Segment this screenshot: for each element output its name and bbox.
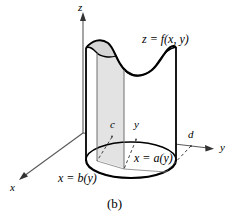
solid-region-diagram [0, 0, 237, 224]
x-axis-label: x [10, 182, 15, 193]
surface-equation-label: z = f(x, y) [142, 33, 189, 45]
figure-container: z y x z = f(x, y) c y d x = a(y) x = b(y… [0, 0, 237, 224]
z-axis-arrowhead [80, 12, 86, 21]
x-axis-arrowhead [19, 172, 28, 180]
point-y-label: y [134, 119, 139, 130]
figure-caption: (b) [107, 197, 122, 210]
tick-c [111, 136, 113, 138]
point-d-label: d [188, 129, 194, 140]
x-axis-line [24, 133, 83, 176]
point-c-label: c [110, 119, 115, 130]
y-axis-label: y [220, 142, 225, 153]
boundary-b-label: x = b(y) [58, 172, 97, 184]
tick-d [190, 145, 192, 147]
tick-y [135, 139, 137, 141]
z-axis-label: z [78, 2, 82, 13]
cross-section-slab [97, 53, 124, 168]
boundary-a-label: x = a(y) [134, 152, 173, 164]
y-axis-arrowhead [205, 145, 214, 152]
